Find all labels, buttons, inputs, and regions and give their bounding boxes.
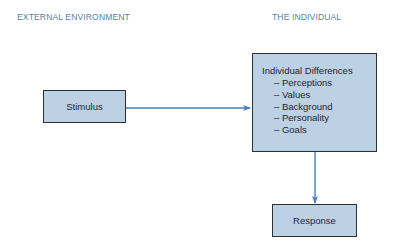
list-item: – Values [274, 89, 333, 101]
individual-differences-list: – Perceptions – Values – Background – Pe… [274, 77, 333, 136]
list-item: – Goals [274, 124, 333, 136]
list-item: – Perceptions [274, 77, 333, 89]
list-item: – Personality [274, 112, 333, 124]
response-box: Response [272, 204, 357, 237]
response-label: Response [293, 215, 336, 226]
list-item: – Background [274, 101, 333, 113]
individual-differences-box: Individual Differences – Perceptions – V… [252, 53, 377, 152]
individual-differences-title: Individual Differences [262, 65, 353, 76]
stimulus-box: Stimulus [43, 90, 126, 123]
stimulus-label: Stimulus [66, 101, 102, 112]
